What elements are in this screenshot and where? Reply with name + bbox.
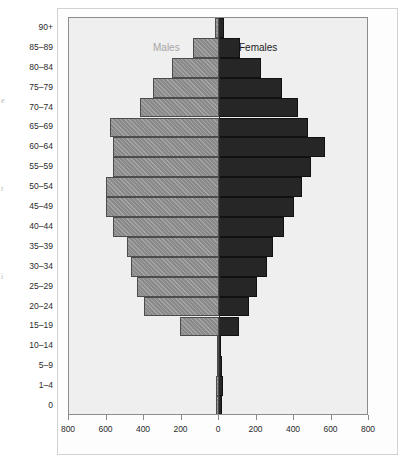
age-group-label: 35–39 [29,240,53,252]
x-axis-tick [68,415,69,420]
age-group-label: 55–59 [29,160,53,172]
bar-males-30-34 [131,257,219,277]
bar-males-40-44 [113,217,219,237]
age-group-label: 40–44 [29,220,53,232]
age-group-label: 5–9 [39,359,53,371]
x-axis-tick-label: 0 [216,424,221,434]
bar-males-70-74 [140,98,219,118]
age-group-label: 70–74 [29,101,53,113]
age-group-label: 0 [48,399,53,411]
bar-males-25-29 [137,277,220,297]
bar-females-75-79 [219,78,282,98]
bar-males-50-54 [106,177,219,197]
bar-males-65-69 [110,118,219,138]
age-group-label: 50–54 [29,180,53,192]
bar-females-80-84 [219,58,261,78]
x-axis-tick-label: 200 [248,424,262,434]
bar-females-1-4 [219,376,223,396]
age-group-label: 30–34 [29,260,53,272]
bar-females-40-44 [219,217,284,237]
x-axis-tick [256,415,257,420]
age-group-label: 10–14 [29,339,53,351]
population-pyramid-figure: eri 90+85–8980–8475–7970–7465–6960–6455–… [0,0,408,472]
x-axis-tick [106,415,107,420]
population-value-axis: 8006004002000200400600800 [68,415,368,445]
age-group-axis: 90+85–8980–8475–7970–7465–6960–6455–5950… [0,17,62,415]
age-group-label: 20–24 [29,300,53,312]
legend-label-males: Males [153,42,180,53]
bar-females-45-49 [219,197,294,217]
age-group-label: 65–69 [29,120,53,132]
bar-females-55-59 [219,157,311,177]
bar-males-80-84 [172,58,219,78]
center-axis-line [219,18,220,414]
bar-females-20-24 [219,297,249,317]
x-axis-tick-label: 600 [323,424,337,434]
age-group-label: 15–19 [29,319,53,331]
bar-females-25-29 [219,277,257,297]
bar-females-65-69 [219,118,308,138]
bar-males-45-49 [106,197,219,217]
bar-females-70-74 [219,98,298,118]
bar-males-85-89 [193,38,219,58]
x-axis-tick-label: 600 [98,424,112,434]
age-group-label: 1–4 [39,379,53,391]
age-group-label: 85–89 [29,41,53,53]
age-group-label: 60–64 [29,140,53,152]
bar-males-60-64 [113,137,219,157]
x-axis-tick [331,415,332,420]
bar-females-60-64 [219,137,325,157]
x-axis-tick [368,415,369,420]
x-axis-tick [143,415,144,420]
age-group-label: 25–29 [29,280,53,292]
x-axis-tick [218,415,219,420]
bar-females-15-19 [219,317,239,337]
age-group-label: 90+ [39,21,53,33]
x-axis-tick-label: 400 [136,424,150,434]
bar-females-30-34 [219,257,267,277]
x-axis-tick-label: 800 [361,424,375,434]
bar-males-75-79 [153,78,219,98]
x-axis-tick-label: 400 [286,424,300,434]
legend-label-females: Females [239,42,277,53]
bar-males-55-59 [113,157,219,177]
bar-females-85-89 [219,38,240,58]
age-group-label: 80–84 [29,61,53,73]
bar-males-20-24 [144,297,219,317]
age-group-label: 75–79 [29,81,53,93]
bar-females-50-54 [219,177,302,197]
x-axis-tick [181,415,182,420]
x-axis-tick-label: 200 [173,424,187,434]
age-group-label: 45–49 [29,200,53,212]
bar-females-90+ [219,18,224,38]
plot-area: Males Females [68,17,368,415]
bar-males-15-19 [180,317,219,337]
x-axis-tick [293,415,294,420]
bar-males-35-39 [127,237,219,257]
x-axis-tick-label: 800 [61,424,75,434]
bar-females-35-39 [219,237,273,257]
